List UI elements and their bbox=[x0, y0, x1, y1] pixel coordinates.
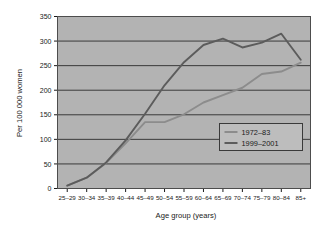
x-axis-tick-label: 80–84 bbox=[273, 194, 291, 201]
x-axis-tick-label: 75–79 bbox=[253, 194, 271, 201]
y-axis-tick-label: 150 bbox=[40, 111, 52, 118]
x-axis-tick-label: 85+ bbox=[296, 194, 307, 201]
y-axis-tick-label: 350 bbox=[40, 13, 52, 20]
legend-label-2: 1999–2001 bbox=[242, 139, 279, 148]
x-axis-tick-label: 25–29 bbox=[59, 194, 77, 201]
y-axis-title: Per 100 000 women bbox=[15, 69, 24, 137]
plot-background bbox=[58, 17, 311, 189]
chart-container: 050100150200250300350 25–2930–3435–3940–… bbox=[0, 0, 327, 225]
x-axis-tick-label: 35–39 bbox=[98, 194, 116, 201]
plot-area-background bbox=[58, 17, 311, 189]
x-axis-tick-label: 65–69 bbox=[214, 194, 232, 201]
y-axis-tick-label: 250 bbox=[40, 62, 52, 69]
x-axis-tick-label: 55–59 bbox=[175, 194, 193, 201]
legend-label-1: 1972–83 bbox=[242, 128, 271, 137]
y-axis-tick-label: 200 bbox=[40, 87, 52, 94]
x-axis-tick-label: 50–54 bbox=[156, 194, 174, 201]
y-axis-tick-label: 0 bbox=[48, 185, 52, 192]
x-axis-tick-label: 45–49 bbox=[136, 194, 154, 201]
chart-legend[interactable]: 1972–831999–2001 bbox=[220, 124, 303, 151]
x-axis-tick-label: 30–34 bbox=[78, 194, 96, 201]
x-axis-tick-label: 70–74 bbox=[234, 194, 252, 201]
x-axis-tick-label: 60–64 bbox=[195, 194, 213, 201]
y-axis-tick-label: 100 bbox=[40, 136, 52, 143]
y-axis-tick-label: 50 bbox=[44, 161, 52, 168]
line-chart: 050100150200250300350 25–2930–3435–3940–… bbox=[0, 0, 327, 225]
x-axis-title: Age group (years) bbox=[156, 211, 217, 220]
x-axis-tick-label: 40–44 bbox=[117, 194, 135, 201]
y-axis-tick-label: 300 bbox=[40, 38, 52, 45]
